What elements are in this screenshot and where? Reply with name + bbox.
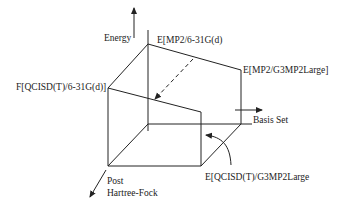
curved-arrow [206,135,231,165]
cube-diagram: Energy E[MP2/6-31G(d) E[MP2/G3MP2Large] … [0,0,341,214]
dashed-arrow [155,59,193,99]
basis-set-axis-label: Basis Set [253,116,288,126]
post-label: Post [107,177,123,187]
label-bottom-right: E[QCISD(T)/G3MP2Large [205,173,309,183]
label-top-right: E[MP2/G3MP2Large] [243,66,328,76]
hartree-fock-label: Hartree-Fock [107,189,158,199]
label-top-back: E[MP2/6-31G(d) [157,36,222,46]
energy-axis-label: Energy [104,34,131,44]
label-front-left: F[QCISD(T)/6-31G(d)] [16,83,106,93]
